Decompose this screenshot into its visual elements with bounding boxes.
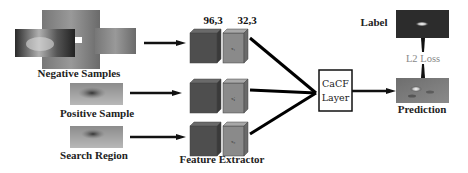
conv-block-96 <box>190 122 221 156</box>
l2-loss-label: L2 Loss <box>406 53 440 64</box>
cacf-layer-line2: Layer <box>322 92 350 103</box>
dim-label-96: 96,3 <box>203 14 223 26</box>
conv-block-32 <box>223 122 248 156</box>
search-region-image <box>70 126 123 148</box>
negative-samples-images <box>15 10 136 69</box>
cacf-diagram: Negative Samples Positive Sample Search … <box>0 0 468 173</box>
feature-extractor-label: Feature Extractor <box>179 153 264 165</box>
conv-block-32 <box>223 29 248 63</box>
prediction-map <box>396 78 449 103</box>
positive-sample-image <box>70 83 123 105</box>
prediction-label: Prediction <box>398 103 447 115</box>
positive-sample-label: Positive Sample <box>60 107 134 119</box>
conv-block-32 <box>223 79 248 113</box>
search-region-label: Search Region <box>60 149 128 161</box>
negative-samples-label: Negative Samples <box>38 67 122 79</box>
arrow-to-prediction <box>352 88 396 94</box>
conv-block-96 <box>190 29 221 63</box>
cube-feature-label: xᵢⱼ <box>231 96 235 101</box>
dim-label-32: 32,3 <box>237 14 257 26</box>
cacf-layer-line1: CaCF <box>322 78 349 89</box>
cube-feature-label: x₁ <box>231 46 236 51</box>
label-text: Label <box>361 16 388 28</box>
feature-extractor: x₁xᵢⱼx₀ <box>190 29 248 156</box>
cube-feature-label: x₀ <box>231 139 236 144</box>
input-arrows <box>130 40 186 140</box>
feature-to-cacf-lines <box>250 38 316 134</box>
negative-sample-image <box>95 28 136 54</box>
conv-block-96 <box>190 79 221 113</box>
cacf-layer-box: CaCF Layer <box>319 70 352 111</box>
label-map <box>396 10 449 38</box>
